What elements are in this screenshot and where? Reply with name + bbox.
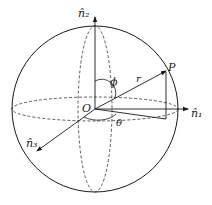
theta-label: θ <box>116 117 122 128</box>
radius-vector <box>95 71 166 109</box>
point-label: P <box>167 61 176 74</box>
n3-label: n̂₃ <box>26 137 38 150</box>
n2-label: n̂₂ <box>78 7 90 20</box>
radius-label: r <box>136 73 142 84</box>
phi-label: ϕ <box>110 76 118 89</box>
origin-label: O <box>82 102 91 115</box>
projection-horizontal <box>95 109 166 119</box>
spherical-coordinates-diagram: n̂₂ n̂₁ n̂₃ O P r ϕ θ <box>0 0 212 205</box>
diagram-svg: n̂₂ n̂₁ n̂₃ O P r ϕ θ <box>0 0 212 205</box>
n3-axis <box>37 109 95 151</box>
n1-label: n̂₁ <box>191 107 203 120</box>
